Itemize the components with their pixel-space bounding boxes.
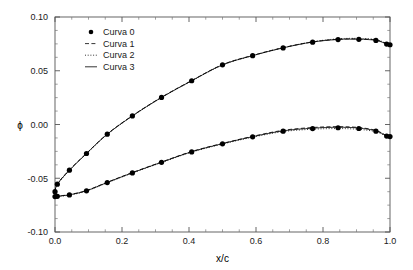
chart-legend: Curva 0Curva 1Curva 2Curva 3: [85, 27, 135, 72]
x-tick-label: 0.2: [116, 236, 129, 246]
data-point: [250, 134, 255, 139]
legend-marker-filled-circle-icon: [89, 30, 94, 35]
data-point: [387, 134, 392, 139]
data-point: [55, 182, 60, 187]
y-tick-label: 0.05: [30, 66, 48, 76]
series-line-curva-3-lower: [55, 127, 390, 196]
data-point: [189, 149, 194, 154]
x-tick-label: 0.6: [250, 236, 263, 246]
data-point: [67, 192, 72, 197]
legend-label-curva-2: Curva 2: [103, 50, 135, 60]
data-point: [189, 78, 194, 83]
x-axis-title: x/c: [216, 253, 229, 264]
data-point: [281, 129, 286, 134]
data-point: [52, 189, 57, 194]
data-point: [220, 141, 225, 146]
data-point: [335, 37, 340, 42]
y-tick-label: -0.05: [27, 174, 48, 184]
data-point: [105, 132, 110, 137]
y-tick-label: 0.00: [30, 120, 48, 130]
data-point: [84, 188, 89, 193]
x-tick-labels: 0.00.20.40.60.81.0: [49, 236, 397, 246]
data-point: [159, 160, 164, 165]
y-tick-labels: 0.100.050.00-0.05-0.10: [27, 12, 48, 237]
data-point: [356, 37, 361, 42]
data-point: [310, 40, 315, 45]
x-tick-label: 1.0: [384, 236, 397, 246]
data-point: [159, 95, 164, 100]
legend-label-curva-1: Curva 1: [103, 39, 135, 49]
chart-figure: 0.00.20.40.60.81.0 0.100.050.00-0.05-0.1…: [0, 0, 413, 270]
data-point: [105, 180, 110, 185]
y-axis-title: ϕ: [17, 120, 23, 131]
y-tick-label: 0.10: [30, 12, 48, 22]
data-point: [220, 62, 225, 67]
series-line-curva-2-lower: [55, 129, 390, 197]
legend-label-curva-0: Curva 0: [103, 27, 135, 37]
data-point: [373, 38, 378, 43]
data-point: [55, 194, 60, 199]
data-point: [310, 126, 315, 131]
chart-canvas: 0.00.20.40.60.81.0 0.100.050.00-0.05-0.1…: [0, 0, 413, 270]
data-point: [356, 126, 361, 131]
x-tick-label: 0.8: [317, 236, 330, 246]
data-point: [281, 45, 286, 50]
x-tick-label: 0.0: [49, 236, 62, 246]
data-point: [373, 129, 378, 134]
x-tick-label: 0.4: [183, 236, 196, 246]
data-point: [387, 42, 392, 47]
data-point: [335, 125, 340, 130]
series-line-curva-1-lower: [55, 127, 390, 197]
data-point: [84, 151, 89, 156]
data-point: [67, 168, 72, 173]
legend-label-curva-3: Curva 3: [103, 62, 135, 72]
data-point: [250, 53, 255, 58]
y-tick-label: -0.10: [27, 227, 48, 237]
data-point: [130, 113, 135, 118]
data-point: [130, 170, 135, 175]
